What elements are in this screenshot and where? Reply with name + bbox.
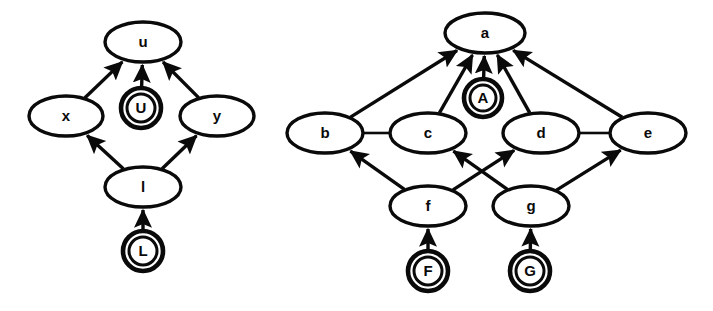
edge-x-to-u — [85, 62, 122, 98]
node-label-g: g — [526, 197, 535, 214]
node-label-A: A — [478, 89, 489, 106]
node-label-L: L — [138, 242, 147, 259]
node-label-e: e — [644, 124, 652, 141]
node-f[interactable]: f — [390, 186, 466, 226]
node-e[interactable]: e — [610, 113, 686, 153]
node-x[interactable]: x — [29, 96, 103, 136]
node-d[interactable]: d — [503, 113, 579, 153]
node-label-u: u — [138, 33, 147, 50]
node-y[interactable]: y — [180, 96, 254, 136]
edge-A-to-a — [484, 56, 485, 78]
node-label-x: x — [62, 107, 71, 124]
node-A[interactable]: A — [464, 79, 502, 117]
node-label-a: a — [481, 24, 490, 41]
node-label-b: b — [320, 124, 329, 141]
node-label-d: d — [536, 124, 545, 141]
edge-l-to-x — [87, 136, 123, 169]
edge-e-to-a — [513, 50, 622, 117]
node-label-c: c — [424, 124, 432, 141]
node-G[interactable]: G — [510, 251, 550, 291]
edge-l-to-y — [162, 136, 196, 169]
nodes-layer: uxUylLaAbcdefgFG — [29, 13, 686, 291]
edge-f-to-b — [350, 151, 404, 189]
node-label-G: G — [524, 262, 536, 279]
edge-U-to-u — [142, 65, 143, 87]
figure-root: uxUylLaAbcdefgFG — [0, 0, 713, 311]
node-F[interactable]: F — [408, 251, 448, 291]
node-label-y: y — [213, 107, 222, 124]
node-U[interactable]: U — [121, 88, 161, 128]
node-b[interactable]: b — [287, 113, 363, 153]
graph-canvas: uxUylLaAbcdefgFG — [0, 0, 713, 311]
node-g[interactable]: g — [493, 186, 569, 226]
node-label-F: F — [423, 262, 432, 279]
node-u[interactable]: u — [105, 22, 181, 62]
node-label-U: U — [136, 99, 147, 116]
node-label-l: l — [141, 178, 145, 195]
edge-g-to-e — [556, 150, 620, 190]
node-a[interactable]: a — [445, 13, 525, 53]
edge-y-to-u — [163, 62, 199, 98]
node-L[interactable]: L — [123, 231, 163, 271]
node-c[interactable]: c — [390, 113, 466, 153]
node-l[interactable]: l — [105, 167, 181, 207]
